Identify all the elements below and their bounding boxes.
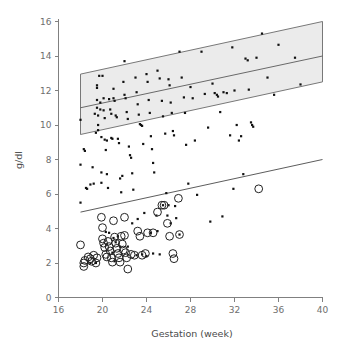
- y-tick-label: 0: [46, 293, 52, 303]
- y-tick-label: 8: [46, 155, 52, 165]
- data-point-dot: [231, 46, 233, 48]
- data-point-dot: [122, 81, 124, 83]
- data-point-dot: [162, 115, 164, 117]
- scatter-chart-figure: 0246810121416 16202428323640 Gestation (…: [0, 0, 348, 345]
- data-point-dot: [119, 177, 121, 179]
- data-point-dot: [152, 252, 154, 254]
- data-point-dot: [100, 182, 102, 184]
- data-point-dot: [123, 60, 125, 62]
- data-point-dot: [136, 91, 138, 93]
- data-point-dot: [112, 237, 114, 239]
- y-axis-title: g/dl: [13, 151, 24, 169]
- data-point-dot: [96, 84, 98, 86]
- data-point-dot: [112, 88, 114, 90]
- data-point-dot: [150, 135, 152, 137]
- data-point-dot: [120, 191, 122, 193]
- data-point-dot: [187, 183, 189, 185]
- data-point-dot: [94, 113, 96, 115]
- data-point-dot: [174, 205, 176, 207]
- y-tick-label: 12: [40, 86, 51, 96]
- data-point-dot: [104, 139, 106, 141]
- data-point-dot: [96, 99, 98, 101]
- data-point-circle: [169, 250, 177, 258]
- y-tick-label: 2: [46, 258, 52, 268]
- data-point-dot: [101, 75, 103, 77]
- data-point-circle: [175, 194, 183, 202]
- data-point-dot: [178, 51, 180, 53]
- data-point-dot: [252, 126, 254, 128]
- data-point-dot: [209, 221, 211, 223]
- data-point-dot: [236, 124, 238, 126]
- data-point-dot: [299, 83, 301, 85]
- data-point-dot: [128, 145, 130, 147]
- data-point-dot: [125, 97, 127, 99]
- data-point-dot: [137, 218, 139, 220]
- x-axis-title: Gestation (week): [151, 328, 232, 339]
- data-point-dot: [92, 166, 94, 168]
- data-point-dot: [93, 183, 95, 185]
- lower-regression-line: [81, 160, 323, 213]
- data-point-dot: [277, 44, 279, 46]
- data-point-dot: [126, 111, 128, 113]
- x-tick-label: 40: [317, 305, 329, 315]
- data-point-dot: [99, 108, 101, 110]
- data-point-dot: [162, 204, 164, 206]
- data-point-dot: [129, 154, 131, 156]
- data-point-dot: [173, 134, 175, 136]
- data-point-dot: [96, 87, 98, 89]
- data-point-dot: [114, 100, 116, 102]
- y-tick-label: 16: [40, 17, 52, 27]
- data-point-dot: [95, 132, 97, 134]
- data-point-dot: [189, 86, 191, 88]
- data-point-dot: [79, 119, 81, 121]
- data-point-dot: [184, 112, 186, 114]
- data-point-dot: [181, 76, 183, 78]
- data-point-dot: [100, 171, 102, 173]
- data-point-dot: [222, 91, 224, 93]
- data-point-dot: [97, 114, 99, 116]
- y-axis-ticks: 0246810121416: [40, 17, 58, 303]
- data-point-dot: [232, 188, 234, 190]
- data-point-dot: [112, 97, 114, 99]
- data-point-dot: [136, 254, 138, 256]
- data-point-dot: [255, 57, 257, 59]
- y-tick-label: 6: [46, 189, 52, 199]
- data-point-dot: [79, 164, 81, 166]
- x-tick-label: 16: [53, 305, 65, 315]
- data-point-circle: [98, 213, 106, 221]
- data-point-dot: [156, 70, 158, 72]
- x-tick-label: 36: [273, 305, 285, 315]
- data-point-dot: [98, 75, 100, 77]
- data-point-dot: [99, 101, 101, 103]
- data-point-circle: [134, 227, 142, 235]
- data-point-dot: [132, 189, 134, 191]
- data-point-dot: [169, 84, 171, 86]
- data-point-dot: [196, 194, 198, 196]
- data-point-dot: [211, 83, 213, 85]
- data-point-dot: [167, 78, 169, 80]
- data-point-dot: [109, 108, 111, 110]
- data-point-dot: [108, 232, 110, 234]
- data-point-dot: [192, 97, 194, 99]
- data-point-dot: [185, 144, 187, 146]
- data-point-dot: [96, 107, 98, 109]
- data-point-dot: [242, 173, 244, 175]
- data-point-dot: [250, 121, 252, 123]
- x-tick-label: 28: [185, 305, 197, 315]
- data-point-dot: [123, 94, 125, 96]
- x-tick-label: 20: [97, 305, 109, 315]
- data-point-dot: [147, 81, 149, 83]
- data-point-dot: [148, 99, 150, 101]
- data-point-dot: [153, 171, 155, 173]
- plot-area: 0246810121416 16202428323640 Gestation (…: [0, 0, 348, 345]
- data-point-dot: [134, 76, 136, 78]
- data-point-dot: [166, 214, 168, 216]
- data-point-dot: [79, 202, 81, 204]
- data-point-circle: [124, 265, 132, 273]
- data-point-dot: [159, 253, 161, 255]
- data-point-dot: [214, 92, 216, 94]
- y-tick-label: 4: [46, 224, 52, 234]
- data-point-dot: [121, 175, 123, 177]
- data-point-dot: [84, 150, 86, 152]
- data-point-dot: [183, 96, 185, 98]
